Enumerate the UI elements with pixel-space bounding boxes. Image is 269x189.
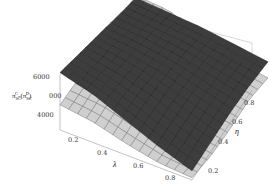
y-tick-0.4: 0.4: [218, 138, 228, 146]
z-tick-5000: 000: [49, 92, 61, 100]
dark-surface: [60, 0, 268, 171]
x-tick-0.2: 0.2: [68, 136, 78, 144]
z-axis: 6000 4000 πSCC-(πSCD) 000: [12, 73, 61, 119]
x-tick-0.6: 0.6: [133, 162, 143, 170]
surface-plot: 6000 4000 πSCC-(πSCD) 000 0.2 0.4 0.6 0.…: [0, 0, 269, 189]
z-axis-label: πSCC-(πSCD): [12, 91, 32, 101]
y-tick-0.2: 0.2: [208, 167, 218, 175]
y-tick-0.6: 0.6: [232, 118, 242, 126]
z-tick-4000: 4000: [37, 111, 54, 119]
x-tick-0.4: 0.4: [97, 149, 107, 157]
y-tick-0.8: 0.8: [244, 99, 254, 107]
x-axis-label: λ: [112, 160, 117, 169]
x-tick-0.8: 0.8: [165, 174, 175, 182]
z-tick-6000: 6000: [33, 73, 50, 81]
y-axis-label: η: [235, 127, 239, 136]
